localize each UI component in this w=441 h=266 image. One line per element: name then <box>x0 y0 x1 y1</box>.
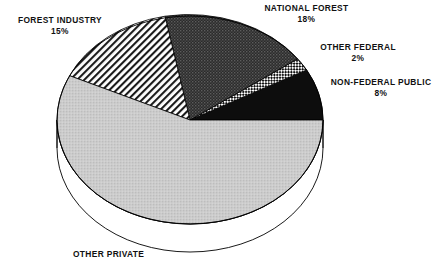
slice-label-non-federal-public-name: NON-FEDERAL PUBLIC <box>321 77 441 88</box>
slice-label-forest-industry: FOREST INDUSTRY 15% <box>8 15 112 36</box>
slice-label-other-federal-percent: 2% <box>307 53 409 64</box>
slice-label-other-private: OTHER PRIVATE <box>73 249 193 260</box>
slice-label-other-private-name: OTHER PRIVATE <box>73 249 193 260</box>
pie-chart-graphic <box>0 0 441 266</box>
slice-label-non-federal-public: NON-FEDERAL PUBLIC 8% <box>321 77 441 98</box>
slice-label-national-forest-percent: 18% <box>243 14 370 25</box>
pie-chart: FOREST INDUSTRY 15% NATIONAL FOREST 18% … <box>0 0 441 266</box>
slice-label-other-federal-name: OTHER FEDERAL <box>307 42 409 53</box>
slice-label-other-federal: OTHER FEDERAL 2% <box>307 42 409 63</box>
slice-label-national-forest-name: NATIONAL FOREST <box>243 3 370 14</box>
slice-label-non-federal-public-percent: 8% <box>321 88 441 99</box>
slice-label-national-forest: NATIONAL FOREST 18% <box>243 3 370 24</box>
slice-label-forest-industry-name: FOREST INDUSTRY <box>8 15 112 26</box>
slice-label-forest-industry-percent: 15% <box>8 26 112 37</box>
